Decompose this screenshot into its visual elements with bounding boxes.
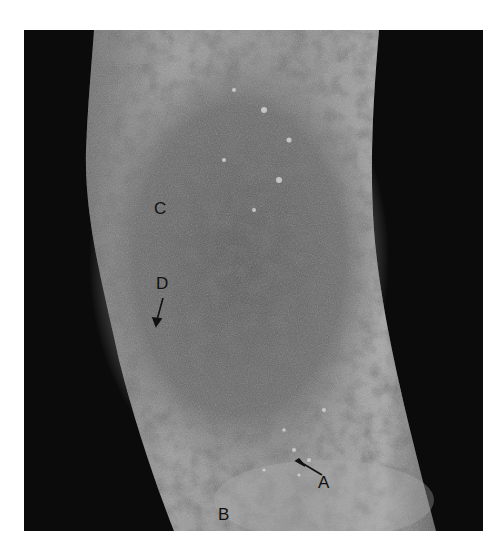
label-b: B [218, 506, 229, 523]
clinical-photo: C D A B [24, 30, 483, 531]
label-c: C [154, 200, 166, 217]
limb-lesion-image [24, 30, 483, 531]
label-d: D [156, 275, 168, 292]
label-a: A [318, 474, 329, 491]
